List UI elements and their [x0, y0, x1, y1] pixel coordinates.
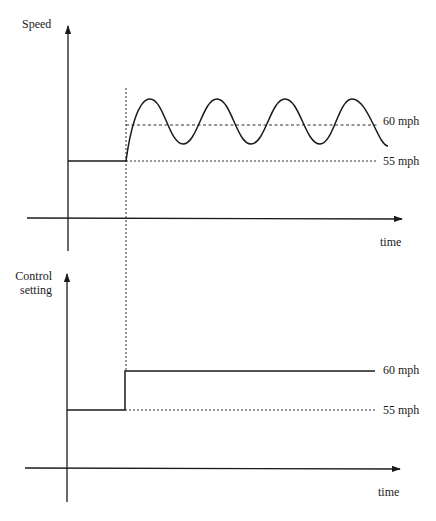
speed-label-60mph: 60 mph [383, 114, 419, 128]
control-setting-step [67, 371, 375, 410]
control-label-55mph: 55 mph [383, 403, 419, 417]
control-time-label: time [378, 485, 399, 499]
speed-x-axis [27, 218, 402, 219]
control-axis-label-line1: Control [15, 269, 52, 283]
speed-panel: Speed 60 mph 55 mph time [22, 17, 419, 251]
speed-label-55mph: 55 mph [383, 154, 419, 168]
control-panel: Control setting 60 mph 55 mph time [15, 269, 419, 502]
control-axis-label-line2: setting [20, 283, 52, 297]
cruise-control-diagram: Speed 60 mph 55 mph time Control setting… [0, 0, 436, 521]
control-label-60mph: 60 mph [383, 363, 419, 377]
control-x-axis [25, 468, 400, 469]
speed-time-label: time [380, 235, 401, 249]
speed-axis-label: Speed [22, 17, 51, 31]
speed-response-curve [68, 99, 388, 161]
